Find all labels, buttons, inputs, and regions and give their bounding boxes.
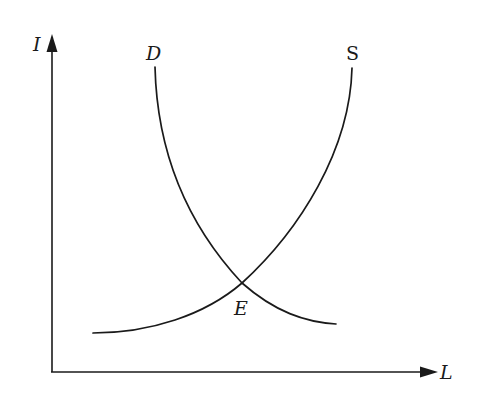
supply-curve — [93, 68, 352, 333]
x-axis-arrow-icon — [420, 367, 438, 378]
supply-curve-label: S — [346, 42, 359, 64]
equilibrium-label: E — [233, 297, 248, 319]
demand-curve — [155, 67, 336, 324]
supply-demand-diagram: I L D S E — [0, 0, 479, 405]
y-axis-label: I — [32, 33, 41, 55]
x-axis-label: L — [439, 361, 453, 383]
y-axis-arrow-icon — [47, 34, 58, 52]
demand-curve-label: D — [145, 42, 161, 64]
axes — [47, 34, 439, 378]
